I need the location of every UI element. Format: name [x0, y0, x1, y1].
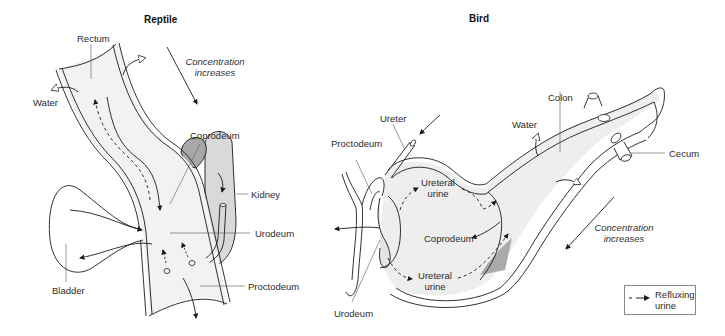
bird-concentration-label: Concentration increases — [594, 222, 654, 244]
bird-title: Bird — [469, 13, 489, 24]
bird-label-colon: Colon — [548, 92, 573, 103]
reptile-label-rectum: Rectum — [77, 33, 110, 44]
bird-concentration-line1: Concentration — [594, 222, 654, 233]
legend-line1: Refluxing — [655, 289, 695, 300]
reptile-label-proctodeum: Proctodeum — [248, 281, 299, 292]
reptile-title: Reptile — [144, 14, 177, 25]
reptile-bladder-shape — [49, 186, 143, 273]
bird-ureteral-urine-bottom-line2: urine — [415, 281, 455, 292]
reptile-label-kidney: Kidney — [251, 189, 280, 200]
reptile-label-coprodeum: Coprodeum — [190, 130, 240, 141]
reptile-label-bladder: Bladder — [52, 285, 85, 296]
bird-ureteral-urine-top-line2: urine — [418, 188, 458, 199]
legend-line2: urine — [655, 300, 695, 311]
bird-label-cecum: Cecum — [669, 148, 699, 159]
bird-label-proctodeum: Proctodeum — [331, 138, 382, 149]
bird-ureteral-urine-top-line1: Ureteral — [418, 177, 458, 188]
bird-concentration-line2: increases — [594, 233, 654, 244]
reptile-concentration-line1: Concentration — [180, 56, 250, 67]
bird-label-urodeum: Urodeum — [334, 308, 373, 319]
bird-label-coprodeum: Coprodeum — [424, 233, 474, 244]
diagram-canvas — [0, 0, 725, 336]
reptile-diagram — [49, 43, 250, 318]
reptile-label-urodeum: Urodeum — [255, 228, 294, 239]
bird-label-ureteral-urine-bottom: Ureteral urine — [415, 270, 455, 292]
bird-label-water: Water — [512, 119, 537, 130]
bird-label-ureter: Ureter — [380, 113, 406, 124]
legend-text: Refluxing urine — [655, 289, 695, 311]
bird-ureteral-urine-bottom-line1: Ureteral — [415, 270, 455, 281]
bird-label-ureteral-urine-top: Ureteral urine — [418, 177, 458, 199]
reptile-concentration-label: Concentration increases — [180, 56, 250, 78]
reptile-concentration-line2: increases — [180, 67, 250, 78]
reptile-label-water: Water — [33, 97, 58, 108]
dashed-arrow-icon — [628, 293, 652, 303]
